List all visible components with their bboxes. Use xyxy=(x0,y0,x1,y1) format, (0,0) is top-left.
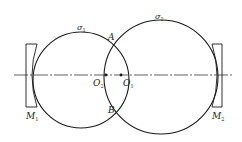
label-point-o2: O2 xyxy=(93,78,104,89)
resonator-diagram: σ1 σ2 A B O2 O1 M1 M2 xyxy=(0,0,242,142)
label-point-b: B xyxy=(107,105,115,115)
label-point-o1: O1 xyxy=(123,78,134,89)
label-sigma-1: σ1 xyxy=(77,23,86,33)
point-o1-dot xyxy=(120,74,123,77)
label-mirror-m1: M1 xyxy=(25,111,38,122)
label-mirror-m2: M2 xyxy=(211,111,224,122)
label-point-a: A xyxy=(107,32,115,42)
label-sigma-2: σ2 xyxy=(155,12,164,22)
point-o2-dot xyxy=(105,74,108,77)
circle-sigma-2 xyxy=(104,20,218,134)
mirror-m1 xyxy=(26,44,37,107)
